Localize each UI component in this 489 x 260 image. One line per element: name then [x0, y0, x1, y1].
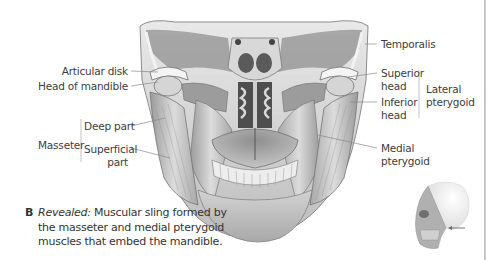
caption-line-2: the masseter and medial pterygoid: [25, 221, 227, 236]
caption-line-3: muscles that embed the mandible.: [25, 235, 227, 250]
label-medial-line2: pterygoid: [381, 155, 430, 167]
label-lateral-line1: Lateral: [426, 83, 461, 95]
label-superficial-part: Superficial part: [84, 143, 128, 168]
label-superficial-line1: Superficial: [84, 143, 137, 155]
label-superficial-line2: part: [107, 156, 128, 168]
page-edge-divider: [484, 0, 486, 260]
label-temporalis: Temporalis: [381, 38, 435, 51]
label-inferior-line1: Inferior: [381, 96, 417, 108]
label-superior-head: Superior head: [381, 67, 424, 92]
label-inferior-head: Inferior head: [381, 96, 417, 121]
figure-letter: B: [25, 206, 38, 221]
label-superior-line2: head: [381, 80, 406, 92]
label-superior-line1: Superior: [381, 67, 424, 79]
label-head-of-mandible: Head of mandible: [20, 80, 128, 93]
label-medial-line1: Medial: [381, 142, 414, 154]
skull-orientation-thumbnail-icon: [416, 182, 470, 249]
label-masseter: Masseter: [38, 139, 84, 152]
figure-caption: BRevealed: Muscular sling formed by the …: [25, 206, 227, 250]
caption-title: Revealed:: [38, 206, 91, 219]
label-deep-part: Deep part: [84, 120, 128, 133]
caption-line-1: Muscular sling formed by: [94, 206, 227, 219]
label-medial-pterygoid: Medial pterygoid: [381, 142, 430, 167]
label-inferior-line2: head: [381, 109, 406, 121]
label-lateral-pterygoid: Lateral pterygoid: [426, 83, 475, 108]
label-articular-disk: Articular disk: [30, 65, 128, 78]
label-lateral-line2: pterygoid: [426, 96, 475, 108]
